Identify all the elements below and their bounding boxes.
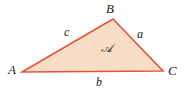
area-symbol-label: 𝒜 — [101, 42, 112, 54]
side-label-c: c — [64, 26, 69, 38]
vertex-label-a: A — [8, 63, 16, 76]
side-label-b: b — [96, 76, 102, 88]
side-label-a: a — [137, 28, 143, 40]
triangle-shape — [0, 0, 188, 97]
triangle-figure: A B C a b c 𝒜 — [0, 0, 188, 97]
vertex-label-c: C — [168, 64, 177, 77]
vertex-label-b: B — [106, 2, 114, 15]
